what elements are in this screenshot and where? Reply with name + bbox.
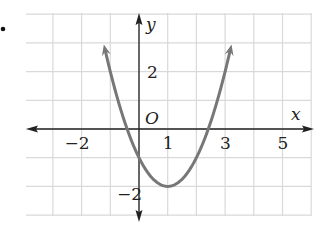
axes xyxy=(26,13,314,222)
origin-label: O xyxy=(145,108,159,128)
y-tick-label: 2 xyxy=(147,62,158,82)
bullet-marker xyxy=(1,27,6,32)
x-tick-label: 5 xyxy=(278,133,289,153)
x-tick-label: 1 xyxy=(163,133,174,153)
x-axis-label: x xyxy=(291,104,301,124)
x-tick-label: 3 xyxy=(220,133,231,153)
parabola-graph: −21352−2Oxy xyxy=(0,0,324,226)
y-axis-label: y xyxy=(145,14,156,34)
y-tick-label: −2 xyxy=(117,184,142,204)
x-tick-label: −2 xyxy=(65,133,90,153)
